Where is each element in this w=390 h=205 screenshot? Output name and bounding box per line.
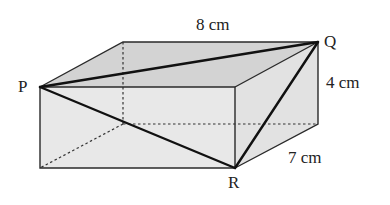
vertex-label-Q: Q	[324, 33, 336, 50]
height-label: 4 cm	[326, 74, 360, 91]
length-label: 8 cm	[196, 16, 230, 33]
vertex-label-P: P	[18, 78, 27, 95]
cuboid-diagram	[0, 0, 390, 205]
width-label: 7 cm	[288, 149, 322, 166]
vertex-label-R: R	[228, 174, 239, 191]
